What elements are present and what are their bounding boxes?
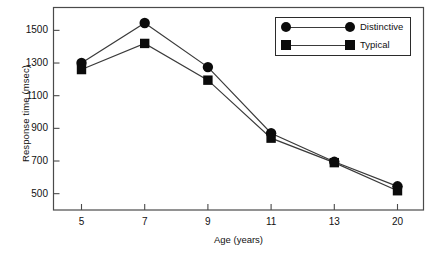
x-tick-label-20: 20 xyxy=(383,216,413,227)
chart-legend: Distinctive Typical xyxy=(275,17,411,56)
chart-figure: 500700900110013001500 579111320 Response… xyxy=(0,0,429,255)
data-point-typical-11 xyxy=(266,133,275,142)
data-point-typical-9 xyxy=(203,75,212,84)
x-tick-label-11: 11 xyxy=(256,216,286,227)
legend-entry-distinctive: Distinctive xyxy=(276,19,410,37)
legend-label-distinctive: Distinctive xyxy=(360,21,403,32)
x-tick-label-9: 9 xyxy=(193,216,223,227)
data-point-typical-20 xyxy=(393,186,402,195)
y-axis-title: Response time (msec) xyxy=(20,34,31,194)
data-point-distinctive-9 xyxy=(203,62,213,72)
x-tick-label-13: 13 xyxy=(319,216,349,227)
legend-circle-marker-right xyxy=(345,22,355,32)
legend-square-marker-right xyxy=(345,40,355,50)
legend-circle-marker-left xyxy=(281,22,291,32)
data-point-typical-13 xyxy=(330,158,339,167)
data-point-typical-5 xyxy=(77,65,86,74)
data-point-typical-7 xyxy=(140,39,149,48)
legend-square-marker-left xyxy=(281,40,291,50)
x-tick-label-5: 5 xyxy=(67,216,97,227)
legend-line-distinctive xyxy=(284,27,352,28)
legend-label-typical: Typical xyxy=(360,39,390,50)
x-tick-label-7: 7 xyxy=(130,216,160,227)
legend-entry-typical: Typical xyxy=(276,37,410,55)
x-axis-title: Age (years) xyxy=(53,234,424,245)
data-point-distinctive-7 xyxy=(140,18,150,28)
legend-line-typical xyxy=(284,45,352,46)
